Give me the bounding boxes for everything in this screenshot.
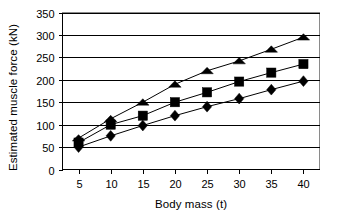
x-tick-label: 40 [297,178,309,190]
y-tick-label: 100 [36,120,54,132]
square-marker [235,77,244,86]
y-tick-label: 0 [48,165,54,177]
plot-frame-group [63,13,320,170]
x-tick-label: 10 [105,178,117,190]
x-axis-title: Body mass (t) [62,198,320,210]
x-tick-label: 5 [76,178,82,190]
chart-plot: 050100150200250300350 510152025303540 [0,0,339,217]
x-tick-label: 35 [265,178,277,190]
y-axis-tick-labels: 050100150200250300350 [36,8,54,177]
y-tick-label: 150 [36,97,54,109]
square-marker [267,68,276,77]
y-tick-label: 50 [42,142,54,154]
y-tick-label: 300 [36,30,54,42]
square-marker [170,98,179,107]
chart-container: Estimated muscle force (kN) 050100150200… [0,0,339,217]
x-tick-label: 30 [233,178,245,190]
y-tick-label: 200 [36,75,54,87]
y-tick-label: 350 [36,8,54,20]
plot-frame [63,13,320,170]
square-marker [299,59,308,68]
y-tick-label: 250 [36,52,54,64]
square-marker [202,88,211,97]
square-marker [138,111,147,120]
x-tick-label: 25 [201,178,213,190]
x-tick-label: 15 [137,178,149,190]
x-tick-label: 20 [169,178,181,190]
x-axis-tick-labels: 510152025303540 [76,178,309,190]
square-marker [106,120,115,129]
